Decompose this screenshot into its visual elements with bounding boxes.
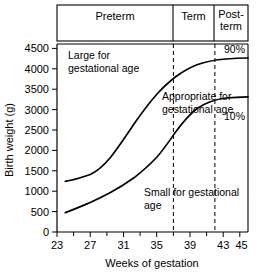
x-tick-label-31: 31 bbox=[117, 239, 129, 251]
band-label-preterm: Preterm bbox=[95, 10, 134, 22]
band-label-postterm-line1: Post- bbox=[218, 8, 244, 20]
y-tick-label-2500: 2500 bbox=[25, 124, 49, 136]
band-label-term: Term bbox=[181, 10, 205, 22]
annotation-appropriate-for-gestational-age: Appropriate for gestational age bbox=[162, 90, 233, 115]
x-tick-label-35: 35 bbox=[151, 239, 163, 251]
y-axis-title: Birth weight (g) bbox=[3, 103, 15, 177]
x-tick-label-43: 43 bbox=[217, 239, 229, 251]
y-tick-label-500: 500 bbox=[31, 206, 49, 218]
annotation-lga-line2: gestational age bbox=[68, 62, 139, 74]
y-axis-ticks: 0 500 1000 1500 2000 2500 3000 3500 4000… bbox=[25, 42, 57, 238]
y-tick-label-4500: 4500 bbox=[25, 42, 49, 54]
x-tick-label-39: 39 bbox=[184, 239, 196, 251]
x-tick-label-23: 23 bbox=[51, 239, 63, 251]
y-tick-label-3500: 3500 bbox=[25, 83, 49, 95]
y-tick-label-1500: 1500 bbox=[25, 165, 49, 177]
period-band-header: Preterm Term Post- term bbox=[57, 5, 248, 41]
y-tick-label-3000: 3000 bbox=[25, 104, 49, 116]
y-tick-label-1000: 1000 bbox=[25, 185, 49, 197]
annotation-sga-line2: age bbox=[144, 199, 162, 211]
x-axis-ticks: 23 27 31 35 39 43 45 bbox=[51, 232, 248, 251]
series-label-90-percent: 90% bbox=[224, 43, 245, 55]
band-label-postterm-line2: term bbox=[220, 20, 242, 32]
y-tick-label-2000: 2000 bbox=[25, 144, 49, 156]
annotation-sga-line1: Small for gestational bbox=[144, 186, 239, 198]
chart-canvas: Preterm Term Post- term bbox=[0, 0, 264, 274]
annotation-lga-line1: Large for bbox=[68, 49, 111, 61]
x-axis-title: Weeks of gestation bbox=[105, 257, 198, 269]
x-tick-label-45: 45 bbox=[235, 239, 247, 251]
y-tick-label-4000: 4000 bbox=[25, 63, 49, 75]
annotation-aga-line1: Appropriate for bbox=[162, 90, 232, 102]
birth-weight-gestational-age-chart: Preterm Term Post- term bbox=[0, 0, 264, 274]
annotation-aga-line2: gestational age bbox=[162, 103, 233, 115]
x-tick-label-27: 27 bbox=[84, 239, 96, 251]
y-tick-label-0: 0 bbox=[43, 226, 49, 238]
